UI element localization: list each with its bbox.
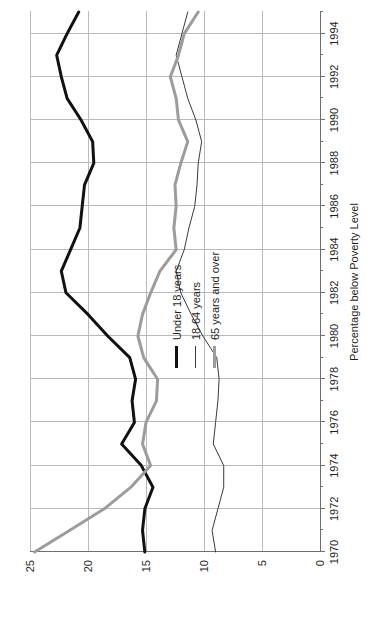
legend-swatch-65-plus-icon — [213, 346, 216, 368]
y-axis-title: Percentage below Poverty Level — [348, 203, 360, 361]
legend-item-65-plus: 65 years and over — [208, 252, 221, 368]
chart-screenshot: 0510152025 19701972197419761978198019821… — [0, 0, 367, 617]
legend-label-65-plus: 65 years and over — [209, 252, 221, 340]
legend-swatch-under-18-icon — [175, 346, 178, 368]
legend: Under 18 years 18-64 years 65 years and … — [170, 252, 227, 368]
legend-label-under-18: Under 18 years — [171, 265, 183, 340]
series-line — [57, 12, 153, 552]
legend-item-18-64: 18-64 years — [189, 252, 202, 368]
legend-item-under-18: Under 18 years — [170, 252, 183, 368]
rotated-chart-canvas: 0510152025 19701972197419761978198019821… — [0, 0, 367, 617]
legend-label-18-64: 18-64 years — [190, 282, 202, 340]
legend-swatch-18-64-icon — [195, 346, 196, 368]
